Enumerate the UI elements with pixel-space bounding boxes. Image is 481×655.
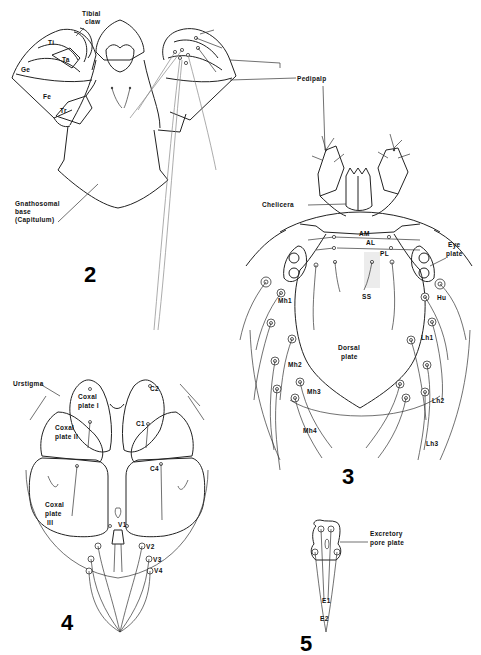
fig3-label-lh3: Lh3 bbox=[426, 440, 439, 447]
figure-plate: Tibial claw Ti Ta Ge Fe Tr Pedipalp Gnat… bbox=[0, 0, 481, 655]
fig2-number: 2 bbox=[84, 262, 96, 287]
fig3-label-mh2: Mh2 bbox=[288, 361, 302, 368]
fig4-label-urstigma: Urstigma bbox=[13, 380, 44, 388]
fig2-gnathosoma-drawing bbox=[12, 20, 296, 330]
fig2-label-ti: Ti bbox=[48, 39, 54, 46]
fig4-label-c4: C4 bbox=[150, 465, 159, 472]
fig3-label-mh3: Mh3 bbox=[307, 388, 321, 395]
fig2-label-gnathosomal-line2: base bbox=[15, 208, 31, 215]
fig3-label-chelicera: Chelicera bbox=[262, 201, 294, 208]
fig3-label-dorsal-line2: plate bbox=[341, 353, 358, 361]
fig4-label-c1: C1 bbox=[136, 420, 145, 427]
fig4-label-coxal1-line1: Coxal bbox=[78, 393, 97, 400]
fig5-number: 5 bbox=[300, 631, 312, 655]
fig2-label-ta: Ta bbox=[62, 56, 70, 63]
fig2-label-fe: Fe bbox=[43, 93, 51, 100]
fig3-label-hu: Hu bbox=[437, 294, 446, 301]
fig4-label-v2: V2 bbox=[146, 543, 155, 550]
fig3-number: 3 bbox=[342, 464, 354, 489]
fig3-label-am: AM bbox=[359, 230, 370, 237]
fig4-label-coxal3-line2: plate bbox=[45, 510, 62, 518]
fig4-label-coxal3-line3: III bbox=[47, 519, 53, 526]
fig4-number: 4 bbox=[61, 610, 74, 635]
fig5-label-e2: E2 bbox=[320, 615, 329, 622]
fig2-label-pedipalp: Pedipalp bbox=[297, 75, 327, 83]
fig3-label-mh4: Mh4 bbox=[303, 427, 317, 434]
fig3-label-pl: PL bbox=[380, 250, 389, 257]
fig3-label-ss: SS bbox=[362, 293, 372, 300]
fig4-label-coxal2-line2: plate II bbox=[55, 433, 78, 441]
fig2-label-gnathosomal-line1: Gnathosomal bbox=[15, 200, 60, 207]
fig3-label-eye-line2: plate bbox=[446, 250, 463, 258]
fig5-label-excretory-line1: Excretory bbox=[370, 530, 403, 538]
fig3-label-al: AL bbox=[366, 239, 375, 246]
fig3-label-eye-line1: Eye bbox=[448, 241, 461, 249]
fig3-label-lh1: Lh1 bbox=[421, 334, 434, 341]
fig4-label-v4: V4 bbox=[154, 567, 163, 574]
fig2-label-tr: Tr bbox=[60, 107, 67, 114]
fig2-label-tibial-claw-line2: claw bbox=[85, 18, 101, 25]
fig4-label-c2: C2 bbox=[150, 385, 159, 392]
fig5-label-e1: E1 bbox=[322, 597, 331, 604]
fig4-label-v1: V1 bbox=[118, 521, 127, 528]
fig5-label-excretory-line2: pore plate bbox=[370, 539, 404, 547]
fig3-label-mh1: Mh1 bbox=[278, 297, 292, 304]
fig4-label-coxal3-line1: Coxal bbox=[45, 501, 64, 508]
fig2-label-gnathosomal-line3: (Capitulum) bbox=[15, 216, 54, 224]
fig2-label-tibial-claw-line1: Tibial bbox=[82, 10, 101, 17]
fig3-dorsal-drawing bbox=[240, 86, 472, 470]
fig4-label-coxal1-line2: plate I bbox=[78, 402, 99, 410]
fig2-label-ge: Ge bbox=[21, 66, 30, 73]
fig4-label-v3: V3 bbox=[153, 556, 162, 563]
fig3-label-lh2: Lh2 bbox=[432, 397, 445, 404]
fig3-label-dorsal-line1: Dorsal bbox=[338, 344, 360, 351]
fig4-label-coxal2-line1: Coxal bbox=[55, 424, 74, 431]
